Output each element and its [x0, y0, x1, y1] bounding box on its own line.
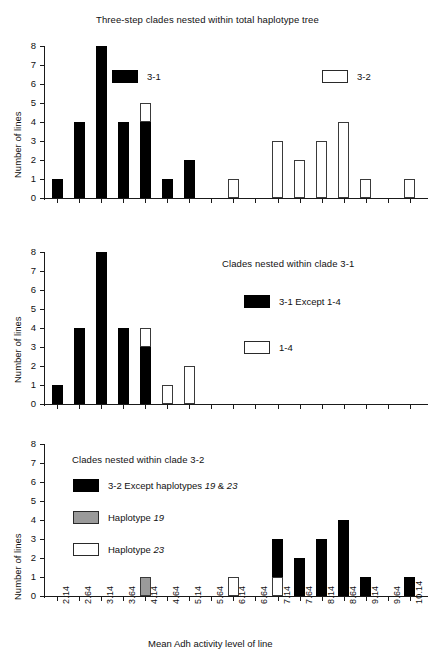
bar-segment [338, 122, 349, 198]
bar-segment [294, 160, 305, 198]
bar-segment [228, 179, 239, 198]
bar-segment [272, 141, 283, 198]
legend-label-3-1: 3-1 [147, 71, 161, 82]
x-tick-mark [167, 597, 168, 601]
x-tick-mark [366, 199, 367, 203]
bar-segment [162, 385, 173, 404]
x-tick-mark [344, 405, 345, 409]
y-tick-mark [40, 404, 44, 405]
x-tick-mark [388, 405, 389, 409]
y-tick-mark [40, 103, 44, 104]
x-tick-mark [344, 597, 345, 601]
x-tick-label: 10.14 [414, 580, 424, 604]
x-tick-mark [255, 405, 256, 409]
x-tick-mark [101, 597, 102, 601]
figure-adh-activity-histograms: Three-step clades nested within total ha… [0, 0, 447, 658]
x-tick-mark [233, 405, 234, 409]
x-tick-mark [101, 199, 102, 203]
x-axis-title: Mean Adh activity level of line [148, 638, 273, 649]
x-tick-mark [300, 597, 301, 601]
y-tick-mark [40, 501, 44, 502]
legend-label-haplotype-23: Haplotype 23 [108, 544, 164, 555]
y-tick-mark [40, 84, 44, 85]
y-tick-label: 0 [22, 399, 36, 409]
bar-segment [316, 141, 327, 198]
y-tick-label: 1 [22, 174, 36, 184]
y-tick-mark [40, 596, 44, 597]
x-tick-mark [278, 199, 279, 203]
bar-segment [140, 328, 151, 347]
y-tick-label: 6 [22, 79, 36, 89]
x-tick-mark [101, 405, 102, 409]
x-tick-label: 4.14 [149, 586, 159, 604]
y-axis-line [44, 252, 45, 406]
x-tick-mark [410, 199, 411, 203]
y-axis-line [44, 444, 45, 598]
x-tick-mark [167, 405, 168, 409]
x-tick-mark [366, 597, 367, 601]
panel-2-legend-3-1-except: 3-1 Except 1-4 [244, 295, 341, 308]
bar-segment [118, 122, 129, 198]
legend-swatch-black-icon [244, 295, 270, 308]
bar-segment [52, 385, 63, 404]
x-tick-mark [344, 199, 345, 203]
x-tick-mark [123, 405, 124, 409]
y-tick-mark [40, 463, 44, 464]
x-tick-mark [366, 405, 367, 409]
x-tick-mark [388, 597, 389, 601]
x-tick-mark [255, 597, 256, 601]
y-tick-mark [40, 385, 44, 386]
y-tick-label: 2 [22, 155, 36, 165]
y-tick-label: 7 [22, 60, 36, 70]
y-tick-mark [40, 65, 44, 66]
y-tick-mark [40, 46, 44, 47]
x-tick-label: 9.64 [392, 586, 402, 604]
x-tick-mark [79, 199, 80, 203]
bar-segment [52, 179, 63, 198]
bar-segment [96, 46, 107, 198]
panel-1-legend-3-1: 3-1 [112, 70, 161, 83]
panel-1-title: Three-step clades nested within total ha… [96, 14, 319, 25]
bar-segment [360, 179, 371, 198]
x-tick-mark [57, 405, 58, 409]
y-tick-mark [40, 122, 44, 123]
x-tick-mark [211, 199, 212, 203]
bar-segment [404, 179, 415, 198]
x-tick-mark [322, 199, 323, 203]
x-tick-mark [255, 199, 256, 203]
y-tick-mark [40, 347, 44, 348]
x-tick-mark [278, 405, 279, 409]
panel-three-step-clades: Three-step clades nested within total ha… [0, 8, 447, 213]
x-tick-mark [79, 597, 80, 601]
x-tick-label: 8.64 [348, 586, 358, 604]
x-tick-label: 2.64 [83, 586, 93, 604]
y-tick-mark [40, 179, 44, 180]
x-tick-mark [145, 597, 146, 601]
x-tick-mark [189, 405, 190, 409]
y-tick-label: 3 [22, 534, 36, 544]
bar-segment [140, 347, 151, 404]
y-tick-label: 8 [22, 247, 36, 257]
y-tick-label: 1 [22, 572, 36, 582]
panel-clades-within-3-1: Clades nested within clade 3-1 Number of… [0, 218, 447, 418]
y-tick-label: 7 [22, 458, 36, 468]
y-tick-mark [40, 198, 44, 199]
y-tick-label: 4 [22, 117, 36, 127]
x-tick-mark [410, 597, 411, 601]
panel-2-legend-1-4: 1-4 [244, 341, 293, 354]
y-tick-mark [40, 160, 44, 161]
legend-swatch-white-icon [244, 341, 270, 354]
panel-3-legend-haplotype-23: Haplotype 23 [73, 543, 164, 556]
y-tick-mark [40, 520, 44, 521]
x-tick-mark [300, 405, 301, 409]
panel-3-legend-3-2-except: 3-2 Except haplotypes 19 & 23 [73, 479, 237, 492]
y-tick-mark [40, 328, 44, 329]
y-tick-label: 0 [22, 591, 36, 601]
y-tick-mark [40, 539, 44, 540]
legend-swatch-black-icon [73, 479, 99, 492]
legend-label-3-2-except-haplotypes: 3-2 Except haplotypes 19 & 23 [108, 480, 237, 491]
panel-3-legend-haplotype-19: Haplotype 19 [73, 511, 164, 524]
x-tick-mark [189, 597, 190, 601]
bar-segment [74, 328, 85, 404]
y-axis-line [44, 46, 45, 200]
